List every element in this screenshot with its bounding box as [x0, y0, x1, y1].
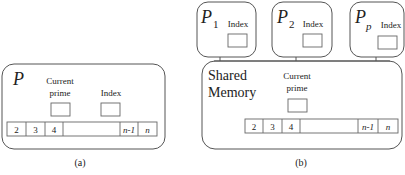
array-cell: 2 — [14, 125, 19, 135]
processor-label: P — [276, 7, 288, 27]
panel-a: P Current prime Index 2 3 4 n-1 n (a) — [2, 64, 165, 169]
processor-2: P 2 Index — [272, 2, 332, 57]
bus-connectors — [214, 57, 390, 61]
processor-subscript: 2 — [289, 18, 295, 30]
caption-b: (b) — [295, 157, 307, 169]
array-cell: 2 — [252, 122, 257, 132]
array: 2 3 4 n-1 n — [245, 119, 398, 133]
sieve-diagram: P Current prime Index 2 3 4 n-1 n (a) — [0, 0, 405, 175]
shared-memory: Shared Memory Current prime 2 3 4 n-1 n — [202, 61, 402, 149]
shared-memory-label-line1: Shared — [208, 68, 247, 83]
index-box — [303, 34, 322, 47]
array-cell: n — [386, 122, 391, 132]
current-prime-label-line2: prime — [50, 88, 71, 98]
current-prime-label-line2: prime — [287, 83, 308, 93]
current-prime-box — [288, 99, 307, 112]
array-cell: 3 — [33, 125, 38, 135]
processor-p: P p Index — [350, 2, 404, 57]
array-cell: n-1 — [362, 122, 374, 132]
processor-1: P 1 Index — [197, 2, 256, 57]
index-label: Index — [101, 88, 122, 98]
index-box — [378, 36, 397, 49]
array-cell: 4 — [289, 122, 294, 132]
processor-subscript: p — [365, 20, 372, 32]
array: 2 3 4 n-1 n — [7, 122, 157, 136]
index-label: Index — [303, 19, 324, 29]
array-outline — [245, 119, 398, 133]
index-box — [228, 34, 247, 47]
processor-subscript: 1 — [213, 18, 219, 30]
current-prime-label-line1: Current — [283, 71, 311, 81]
index-label: Index — [228, 19, 249, 29]
shared-memory-label-line2: Memory — [208, 85, 256, 100]
processor-label: P — [200, 7, 212, 27]
index-box — [101, 103, 120, 116]
array-cell: 4 — [52, 125, 57, 135]
array-cell: n — [145, 125, 150, 135]
array-cell: 3 — [270, 122, 275, 132]
index-label: Index — [381, 20, 402, 30]
caption-a: (a) — [74, 157, 85, 169]
array-cell: n-1 — [123, 125, 135, 135]
panel-b: P 1 Index P 2 Index P p Index Shared Mem… — [197, 2, 404, 169]
current-prime-label-line1: Current — [46, 76, 74, 86]
process-label: P — [12, 69, 24, 89]
current-prime-box — [51, 103, 70, 116]
processor-label: P — [354, 7, 366, 27]
